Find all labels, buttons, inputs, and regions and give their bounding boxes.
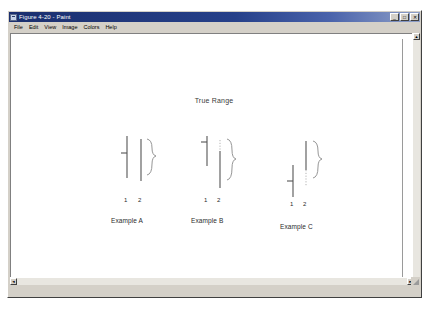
paint-application-window: Figure 4-20 - Paint _ □ ✕ File Edit View… — [7, 10, 422, 298]
menu-item-view[interactable]: View — [41, 23, 59, 32]
maximize-icon: □ — [401, 14, 408, 20]
scroll-left-arrow-icon[interactable]: ◄ — [10, 278, 17, 285]
menu-bar: File Edit View Image Colors Help — [9, 23, 420, 32]
canvas-workspace[interactable]: True Range 1 2 — [10, 33, 414, 284]
horizontal-scrollbar[interactable]: ◄ ► — [10, 277, 414, 285]
true-range-figure: True Range 1 2 — [25, 39, 403, 282]
true-range-brace — [227, 139, 236, 180]
ohlc-bars-b — [185, 134, 281, 196]
true-range-brace — [313, 141, 322, 178]
example-group-c: 1 2 Example C — [275, 139, 371, 239]
chart-title: True Range — [25, 97, 403, 104]
menu-item-edit[interactable]: Edit — [26, 23, 41, 32]
window-controls: _ □ ✕ — [390, 13, 419, 21]
ohlc-bars-c — [275, 139, 371, 205]
vertical-scrollbar[interactable]: ▲ ▼ — [412, 33, 420, 284]
menu-item-help[interactable]: Help — [102, 23, 119, 32]
example-group-b: 1 2 Example B — [185, 134, 281, 234]
drawing-canvas[interactable]: True Range 1 2 — [25, 39, 403, 282]
example-group-a: 1 2 Example A — [101, 134, 197, 234]
example-caption-a: Example A — [101, 217, 197, 224]
close-icon: ✕ — [411, 14, 418, 20]
ohlc-bars-a — [101, 134, 197, 196]
menu-item-colors[interactable]: Colors — [80, 23, 102, 32]
bar-index-1: 1 — [124, 197, 127, 203]
paint-icon — [10, 14, 17, 21]
example-caption-c: Example C — [275, 223, 371, 230]
bar-index-1: 1 — [204, 197, 207, 203]
resize-grip[interactable] — [411, 277, 420, 286]
bar-index-1: 1 — [290, 201, 293, 207]
status-bar — [9, 286, 420, 296]
menu-item-file[interactable]: File — [11, 23, 26, 32]
minimize-icon: _ — [391, 14, 398, 20]
true-range-brace — [147, 139, 156, 175]
example-caption-b: Example B — [185, 217, 281, 224]
bar-index-2: 2 — [303, 201, 306, 207]
scroll-up-arrow-icon[interactable]: ▲ — [413, 33, 420, 40]
minimize-button[interactable]: _ — [390, 13, 399, 21]
close-button[interactable]: ✕ — [410, 13, 419, 21]
menu-item-image[interactable]: Image — [59, 23, 80, 32]
maximize-button[interactable]: □ — [400, 13, 409, 21]
window-title: Figure 4-20 - Paint — [19, 13, 386, 21]
title-bar[interactable]: Figure 4-20 - Paint _ □ ✕ — [9, 12, 420, 22]
bar-index-2: 2 — [217, 197, 220, 203]
bar-index-2: 2 — [138, 197, 141, 203]
